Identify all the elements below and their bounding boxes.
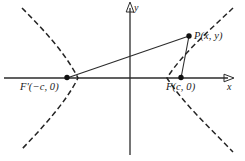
hyperbola-figure: F'(−c, 0) F(c, 0) P(x, y) y x <box>0 0 245 161</box>
focus-right-dot <box>178 75 183 80</box>
y-axis-label: y <box>134 3 139 13</box>
focus-right-label: F(c, 0) <box>166 82 195 93</box>
focus-left-dot <box>64 75 69 80</box>
point-p-label: P(x, y) <box>194 31 223 42</box>
x-axis-label: x <box>227 82 232 92</box>
point-p-dot <box>186 33 191 38</box>
focus-left-label: F'(−c, 0) <box>20 82 59 93</box>
